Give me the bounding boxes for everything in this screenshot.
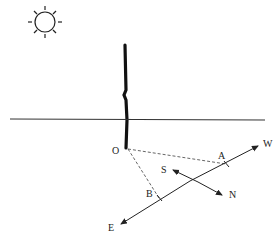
label-W: W [263,138,273,149]
dashed-line-OA [128,149,226,164]
diagram-canvas: O A B S N W E [0,0,278,239]
label-A: A [218,150,226,161]
line-west-east [121,181,190,224]
label-E: E [108,222,114,233]
line-north-south [173,170,198,182]
label-N: N [229,189,236,200]
line-south-north [198,182,222,195]
sun-icon [28,6,62,38]
label-S: S [161,164,167,175]
label-O: O [112,145,119,156]
ground-line [10,119,265,120]
pole [124,45,127,148]
label-B: B [146,188,153,199]
dashed-line-OB [128,149,159,198]
